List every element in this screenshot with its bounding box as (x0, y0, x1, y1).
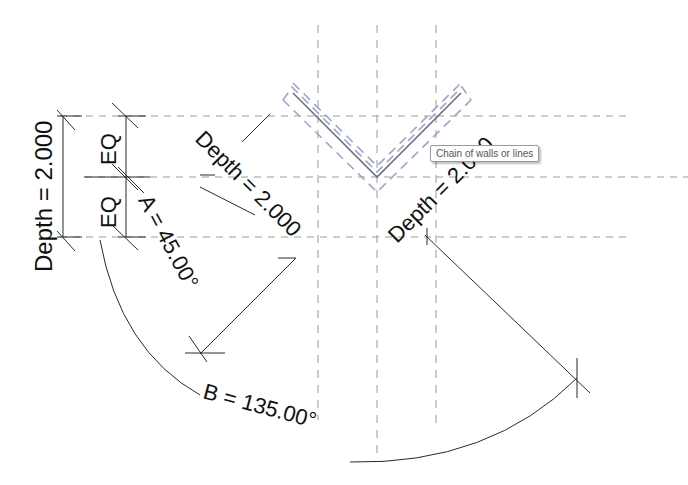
tooltip-text: Chain of walls or lines (436, 148, 533, 159)
depth-label-left: Depth = 2.000 (30, 121, 57, 272)
tooltip: Chain of walls or lines (430, 145, 539, 162)
depth-dimension-diagonal-right[interactable] (425, 228, 590, 398)
angle-b-label: B = 135.00° (201, 379, 319, 433)
eq-label-bottom: EQ (96, 196, 121, 228)
drawing-canvas[interactable]: Depth = 2.000 EQ EQ A = 45.00° Depth = 2… (0, 0, 688, 485)
angle-a-label: A = 45.00° (134, 191, 204, 293)
eq-label-top: EQ (96, 133, 121, 165)
drawing-svg: Depth = 2.000 EQ EQ A = 45.00° Depth = 2… (0, 0, 688, 485)
depth-label-diagonal-left: Depth = 2.000 (190, 126, 306, 242)
reference-planes-vertical[interactable] (318, 25, 436, 460)
depth-dimension-left[interactable] (57, 110, 82, 251)
